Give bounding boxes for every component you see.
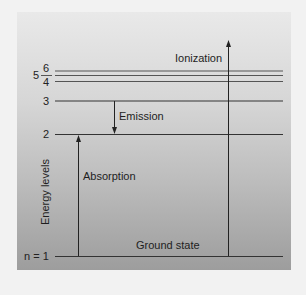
absorption-arrowhead-icon <box>76 135 81 142</box>
level-number-5: 5 <box>33 70 39 81</box>
ground-state-label: Ground state <box>136 240 200 251</box>
level-number-3: 3 <box>43 96 49 107</box>
level-number-2: 2 <box>43 129 49 140</box>
energy-levels-axis-label: Energy levels <box>39 142 51 242</box>
level-number-1: n = 1 <box>24 251 49 262</box>
ionization-arrowhead-icon <box>226 40 231 47</box>
level-number-6: 6 <box>43 63 49 74</box>
absorption-label: Absorption <box>83 171 136 182</box>
emission-arrowhead-icon <box>112 127 117 134</box>
emission-label: Emission <box>119 111 164 122</box>
level-number-4: 4 <box>43 77 49 88</box>
ionization-label: Ionization <box>175 53 222 64</box>
